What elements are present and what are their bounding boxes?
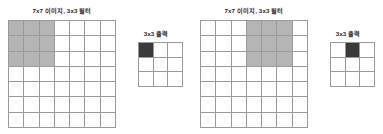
output-cell: [168, 43, 183, 58]
input-cell-highlighted: [262, 36, 277, 51]
input-cell: [40, 82, 55, 97]
input-cell-highlighted: [40, 21, 55, 36]
output-cell: [331, 72, 346, 87]
input-cell: [101, 21, 116, 36]
input-cell-highlighted: [277, 21, 292, 36]
output-grid-caption: 3x3 출력: [321, 30, 375, 38]
input-cell: [232, 36, 247, 51]
input-cell: [277, 82, 292, 97]
input-cell: [232, 67, 247, 82]
input-cell: [216, 21, 231, 36]
input-cell-highlighted: [24, 21, 39, 36]
input-cell: [40, 67, 55, 82]
input-cell: [247, 82, 262, 97]
output-cell: [331, 43, 346, 58]
input-cell: [85, 113, 100, 128]
input-cell: [85, 52, 100, 67]
input-cell: [40, 113, 55, 128]
input-cell-highlighted: [247, 21, 262, 36]
input-cell: [9, 113, 24, 128]
input-cell: [216, 97, 231, 112]
input-cell: [85, 97, 100, 112]
input-cell: [201, 113, 216, 128]
output-cell: [168, 58, 183, 73]
input-cell: [55, 21, 70, 36]
input-cell: [101, 36, 116, 51]
input-cell: [55, 36, 70, 51]
input-cell: [101, 82, 116, 97]
input-cell: [293, 97, 308, 112]
output-grid-3x3: [138, 42, 183, 87]
input-cell: [85, 21, 100, 36]
input-cell: [101, 113, 116, 128]
input-cell: [101, 67, 116, 82]
input-cell-highlighted: [9, 21, 24, 36]
input-cell: [9, 97, 24, 112]
input-cell: [277, 113, 292, 128]
input-cell: [101, 97, 116, 112]
input-cell: [85, 36, 100, 51]
output-cell: [360, 43, 375, 58]
output-cell: [331, 58, 346, 73]
output-cell-active: [139, 43, 154, 58]
input-cell: [201, 52, 216, 67]
input-cell: [216, 82, 231, 97]
input-cell-highlighted: [247, 36, 262, 51]
input-cell: [70, 21, 85, 36]
input-cell-highlighted: [9, 52, 24, 67]
output-cell: [154, 72, 169, 87]
input-cell-highlighted: [262, 52, 277, 67]
input-cell: [40, 97, 55, 112]
input-cell: [293, 67, 308, 82]
input-cell: [24, 113, 39, 128]
input-cell-highlighted: [40, 52, 55, 67]
input-cell: [9, 82, 24, 97]
input-cell-highlighted: [262, 21, 277, 36]
input-cell: [232, 21, 247, 36]
input-cell: [247, 113, 262, 128]
panel-left: 7x7 이미지, 3x3 필터 3x3 출력: [0, 0, 191, 134]
input-grid-7x7: [8, 20, 116, 128]
input-cell: [85, 67, 100, 82]
input-cell: [201, 97, 216, 112]
input-cell-highlighted: [40, 36, 55, 51]
input-cell: [9, 67, 24, 82]
input-cell: [232, 82, 247, 97]
input-cell: [24, 67, 39, 82]
input-grid-caption: 7x7 이미지, 3x3 필터: [200, 7, 308, 15]
input-cell: [277, 67, 292, 82]
input-cell-highlighted: [9, 36, 24, 51]
input-cell: [55, 82, 70, 97]
input-cell: [262, 113, 277, 128]
output-cell: [360, 72, 375, 87]
input-grid-7x7: [200, 20, 308, 128]
input-cell: [24, 82, 39, 97]
input-cell: [293, 113, 308, 128]
input-cell: [70, 82, 85, 97]
input-cell: [293, 21, 308, 36]
input-cell: [55, 52, 70, 67]
output-cell: [139, 58, 154, 73]
input-cell: [232, 113, 247, 128]
input-cell: [70, 97, 85, 112]
output-cell: [154, 43, 169, 58]
input-cell: [85, 82, 100, 97]
output-grid-3x3: [330, 42, 375, 87]
output-cell: [346, 58, 361, 73]
input-cell-highlighted: [24, 36, 39, 51]
input-cell: [293, 82, 308, 97]
output-cell: [139, 72, 154, 87]
input-cell: [293, 52, 308, 67]
input-grid-caption: 7x7 이미지, 3x3 필터: [8, 7, 116, 15]
input-cell: [216, 52, 231, 67]
input-cell: [201, 82, 216, 97]
input-cell: [55, 113, 70, 128]
output-cell: [346, 72, 361, 87]
input-cell: [247, 97, 262, 112]
input-cell: [201, 36, 216, 51]
panel-right: 7x7 이미지, 3x3 필터 3x3 출력: [192, 0, 383, 134]
input-cell: [70, 36, 85, 51]
convolution-stride-figure: 7x7 이미지, 3x3 필터 3x3 출력 7x7 이미지, 3x3 필터 3…: [0, 0, 383, 134]
input-cell: [55, 67, 70, 82]
output-grid-caption: 3x3 출력: [129, 30, 183, 38]
